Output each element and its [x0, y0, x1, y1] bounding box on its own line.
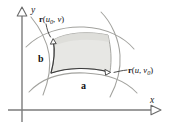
figure-container: y x	[0, 0, 170, 131]
y-axis-label: y	[30, 5, 36, 15]
leader-line-r-u-v0	[114, 70, 127, 72]
label-vector-a: a	[81, 80, 86, 91]
x-axis-label: x	[149, 95, 155, 105]
label-r-u-v0: r(u, v0)	[128, 65, 153, 76]
x-axis-arrowhead-icon	[151, 105, 161, 115]
y-axis-arrowhead-icon	[17, 7, 27, 16]
leader-line-r-u0-v	[46, 24, 51, 37]
surface-patch-group	[51, 33, 111, 73]
label-r-u0-v: r(u0, v)	[39, 14, 64, 25]
surface-patch-diagram: y x	[0, 0, 170, 131]
label-vector-b: b	[38, 53, 44, 64]
label-r-u-v0-close: )	[150, 65, 153, 75]
label-r-u0-v-close: )	[61, 14, 64, 24]
